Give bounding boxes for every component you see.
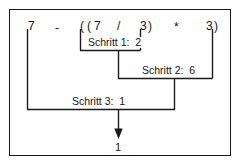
step-3-label: Schritt 3: 1: [70, 96, 127, 107]
expr-token-operand-7-left: 7: [28, 20, 35, 32]
diagram-canvas: 7 - ( ( 7 / 3 ) * 3 ) Schritt 1: 2 Schri…: [0, 0, 243, 168]
expr-token-operand-7-inner: 7: [94, 20, 101, 32]
step-2-label: Schritt 2: 6: [140, 65, 197, 76]
expr-token-paren-close-outer: ): [214, 20, 218, 32]
expr-token-paren-close-inner: ): [148, 20, 152, 32]
expr-token-paren-open-inner: (: [87, 20, 91, 32]
expr-token-operator-multiply: *: [174, 21, 179, 33]
expr-token-operand-3-outer: 3: [206, 20, 213, 32]
expr-token-paren-open-outer: (: [80, 20, 84, 32]
expr-token-operator-divide: /: [117, 20, 120, 32]
step-1-label: Schritt 1: 2: [86, 37, 143, 48]
expr-token-operand-3-inner: 3: [140, 20, 147, 32]
final-result-value: 1: [115, 142, 121, 153]
expr-token-operator-minus: -: [55, 22, 59, 34]
